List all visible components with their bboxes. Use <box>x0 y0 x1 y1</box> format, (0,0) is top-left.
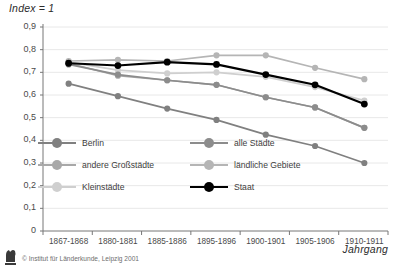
legend-item[interactable]: Berlin <box>38 138 104 148</box>
legend-swatch-icon <box>190 182 228 192</box>
legend-swatch-icon <box>190 138 228 148</box>
legend-item-label: Kleinstädte <box>82 182 125 192</box>
legend-item[interactable]: andere Großstädte <box>38 160 154 170</box>
y-axis-tick-label: 0,2 <box>10 180 36 190</box>
chart-container: Index = 1 0,90,80,70,60,50,40,30,20,10 1… <box>0 0 396 271</box>
legend-item-label: ländliche Gebiete <box>234 160 300 170</box>
legend-swatch-icon <box>38 160 76 170</box>
y-axis-tick-label: 0,9 <box>10 21 36 31</box>
x-axis-tick-label: 1895-1896 <box>191 237 241 246</box>
institute-logo-icon <box>3 248 19 266</box>
legend-item[interactable]: alle Städte <box>190 138 275 148</box>
x-axis-tick-label: 1900-1901 <box>241 237 291 246</box>
y-axis-tick-label: 0,4 <box>10 134 36 144</box>
chart-plot-area <box>0 0 396 271</box>
legend-item-label: Berlin <box>82 138 104 148</box>
x-axis-tick-label: 1867-1868 <box>44 237 94 246</box>
legend-item-label: alle Städte <box>234 138 275 148</box>
legend-item-label: Staat <box>234 182 254 192</box>
copyright-credit: © Institut für Länderkunde, Leipzig 2001 <box>22 255 139 262</box>
legend-item[interactable]: ländliche Gebiete <box>190 160 300 170</box>
legend-item[interactable]: Kleinstädte <box>38 182 125 192</box>
x-axis-tick-label: 1880-1881 <box>93 237 143 246</box>
y-axis-tick-label: 0,7 <box>10 66 36 76</box>
x-axis-tick-label: 1885-1886 <box>142 237 192 246</box>
y-axis-tick-label: 0,1 <box>10 202 36 212</box>
y-axis-tick-label: 0,8 <box>10 44 36 54</box>
y-axis-tick-label: 0,3 <box>10 157 36 167</box>
legend-swatch-icon <box>38 138 76 148</box>
chart-legend: Berlinalle Städteandere Großstädteländli… <box>38 138 338 196</box>
legend-item[interactable]: Staat <box>190 182 254 192</box>
y-axis-tick-label: 0 <box>10 225 36 235</box>
legend-swatch-icon <box>38 182 76 192</box>
legend-swatch-icon <box>190 160 228 170</box>
x-axis-title: Jahrgang <box>343 243 388 255</box>
y-axis-tick-label: 0,5 <box>10 112 36 122</box>
x-axis-tick-label: 1905-1906 <box>290 237 340 246</box>
y-axis-tick-label: 0,6 <box>10 89 36 99</box>
legend-item-label: andere Großstädte <box>82 160 154 170</box>
